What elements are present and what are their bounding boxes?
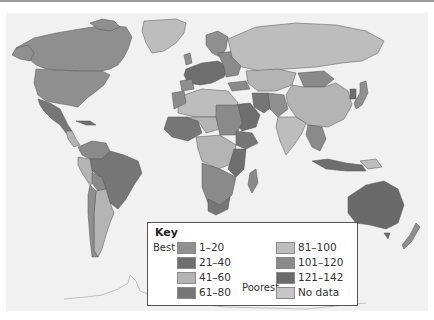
swatch-81-100 bbox=[276, 242, 295, 254]
map-key: Key Best Poorest 1–20 21–40 41–60 61–80 … bbox=[147, 222, 358, 306]
mongolia bbox=[298, 71, 334, 87]
ethiopia-horn bbox=[236, 131, 258, 149]
uk bbox=[184, 53, 192, 65]
southeast-asia bbox=[306, 125, 326, 151]
range-label-6: 101–120 bbox=[298, 256, 343, 268]
india bbox=[276, 117, 306, 155]
greenland bbox=[142, 19, 186, 53]
swatch-21-40 bbox=[177, 257, 196, 269]
range-label-2: 21–40 bbox=[199, 256, 231, 268]
egypt-sudan bbox=[216, 105, 242, 135]
new-zealand bbox=[402, 223, 420, 249]
top-rule bbox=[0, 0, 434, 2]
best-label: Best bbox=[153, 242, 175, 253]
central-america bbox=[66, 131, 80, 147]
turkey bbox=[228, 81, 250, 91]
korea bbox=[350, 89, 356, 99]
poorest-label: Poorest bbox=[242, 282, 279, 293]
iberia bbox=[180, 79, 194, 91]
cuba bbox=[76, 121, 96, 125]
swatch-101-120 bbox=[276, 257, 295, 269]
range-label-5: 81–100 bbox=[298, 241, 337, 253]
swatch-1-20 bbox=[177, 242, 196, 254]
swatch-41-60 bbox=[177, 272, 196, 284]
canada bbox=[16, 25, 132, 73]
afghanistan-pakistan bbox=[268, 93, 288, 117]
indonesia bbox=[312, 159, 366, 171]
swatch-61-80 bbox=[177, 287, 196, 299]
madagascar bbox=[248, 169, 258, 193]
tasmania bbox=[384, 233, 390, 239]
key-title: Key bbox=[155, 226, 178, 239]
range-label-4: 61–80 bbox=[199, 286, 231, 298]
range-label-3: 41–60 bbox=[199, 271, 231, 283]
range-label-1: 1–20 bbox=[199, 241, 224, 253]
range-label-7: 121–142 bbox=[298, 271, 343, 283]
swatch-no-data bbox=[276, 287, 295, 299]
russia bbox=[228, 23, 384, 71]
range-label-8: No data bbox=[298, 286, 339, 298]
swatch-121-142 bbox=[276, 272, 295, 284]
central-asia bbox=[246, 69, 296, 91]
